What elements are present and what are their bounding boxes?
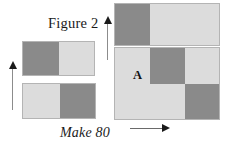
bottom-horizontal-arrow-right-icon	[130, 128, 163, 129]
left-upper-light-half	[59, 42, 94, 75]
checker-top-left-dark	[150, 48, 185, 84]
right-lower-left-column	[115, 48, 150, 119]
checker-bottom-right-dark	[185, 84, 219, 119]
region-label-a: A	[133, 69, 142, 82]
checker-bottom-left-light	[150, 84, 185, 119]
figure-title: Figure 2	[48, 16, 98, 31]
checker-top-right-light	[185, 48, 219, 84]
left-lower-dark-half	[60, 84, 95, 118]
right-upper-dark-band	[115, 4, 150, 45]
left-vertical-arrow-up-icon	[12, 67, 13, 110]
make-instruction-label: Make 80	[60, 126, 110, 140]
figure-diagram: Figure 2 A Make 80	[0, 0, 237, 149]
left-upper-dark-half	[23, 42, 59, 75]
right-upper-light-area	[150, 4, 219, 45]
left-lower-light-half	[23, 84, 60, 118]
middle-vertical-arrow-up-icon	[107, 22, 108, 60]
